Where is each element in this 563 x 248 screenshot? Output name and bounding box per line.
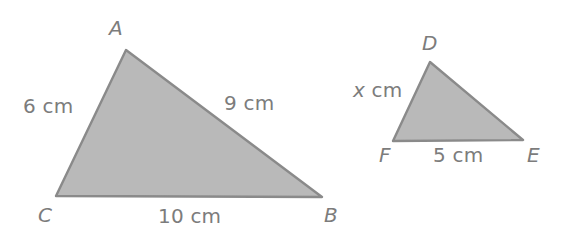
side-length-label-fe: 5 cm	[433, 145, 483, 165]
side-length-variable-x: x	[353, 78, 365, 102]
side-length-unit-x: cm	[365, 78, 402, 102]
vertex-label-d: D	[422, 33, 438, 53]
vertex-label-f: F	[379, 145, 391, 165]
vertex-label-c: C	[38, 205, 52, 225]
geometry-figure: A B C 6 cm 9 cm 10 cm D E F x cm 5 cm	[0, 0, 563, 248]
side-length-label-ca: 6 cm	[23, 96, 73, 116]
triangle-def-shape	[393, 62, 523, 141]
side-length-label-cb: 10 cm	[158, 206, 221, 226]
vertex-label-a: A	[109, 18, 123, 38]
side-length-label-ab: 9 cm	[224, 93, 274, 113]
vertex-label-b: B	[324, 205, 338, 225]
side-length-label-fd: x cm	[353, 80, 402, 100]
triangle-abc-shape	[56, 50, 322, 197]
vertex-label-e: E	[527, 145, 540, 165]
figure-canvas	[0, 0, 563, 248]
